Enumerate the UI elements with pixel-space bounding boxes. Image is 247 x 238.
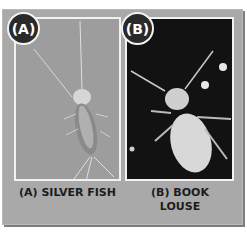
silverfish-illustration <box>16 19 121 181</box>
silverfish-caption: (A) SILVER FISH <box>14 186 121 200</box>
book-louse-caption-line2: LOUSE <box>128 200 232 214</box>
panel-a-badge: (A) <box>7 12 40 45</box>
panel-b-badge: (B) <box>121 12 154 45</box>
silverfish-caption-text: (A) SILVER FISH <box>19 186 116 199</box>
book-louse-caption-line1: (B) BOOK <box>128 186 232 200</box>
book-louse-caption: (B) BOOK LOUSE <box>128 186 232 214</box>
